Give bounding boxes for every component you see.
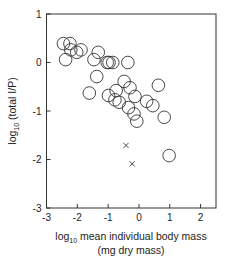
- data-point-circle: [130, 115, 143, 128]
- data-point-cross: [123, 143, 128, 148]
- data-point-circle: [113, 96, 126, 109]
- y-tick-label: 0: [36, 57, 42, 68]
- data-point-circle: [92, 46, 105, 59]
- x-axis: -3-2-1012: [42, 204, 204, 223]
- x-axis-label: log10 mean individual body mass: [55, 230, 206, 244]
- plot-frame: [47, 14, 217, 208]
- x-tick-label: -2: [73, 212, 82, 223]
- data-point-circle: [122, 56, 135, 69]
- y-tick-label: -1: [33, 106, 42, 117]
- data-point-circle: [90, 70, 103, 83]
- data-point-circle: [83, 87, 96, 100]
- data-point-cross: [130, 161, 135, 166]
- y-axis: -3-2-101: [33, 9, 51, 214]
- data-point-circle: [106, 56, 119, 69]
- y-axis-label: log10 (total I/P): [6, 77, 20, 144]
- data-point-circle: [88, 53, 101, 66]
- data-point-circle: [163, 149, 176, 162]
- y-tick-label: 1: [36, 9, 42, 20]
- x-tick-label: 2: [198, 212, 204, 223]
- x-tick-label: -1: [104, 212, 113, 223]
- data-points: [57, 37, 175, 166]
- x-tick-label: 0: [136, 212, 142, 223]
- data-point-circle: [75, 44, 88, 57]
- y-tick-label: -3: [33, 203, 42, 214]
- x-tick-label: -3: [42, 212, 51, 223]
- x-axis-label-line2: (mg dry mass): [97, 244, 164, 256]
- data-point-circle: [158, 111, 171, 124]
- y-tick-label: -2: [33, 154, 42, 165]
- data-point-circle: [59, 53, 72, 66]
- scatter-chart: -3-2-1012 -3-2-101 log10 (total I/P) log…: [0, 0, 227, 264]
- x-tick-label: 1: [167, 212, 173, 223]
- data-point-circle: [152, 79, 165, 92]
